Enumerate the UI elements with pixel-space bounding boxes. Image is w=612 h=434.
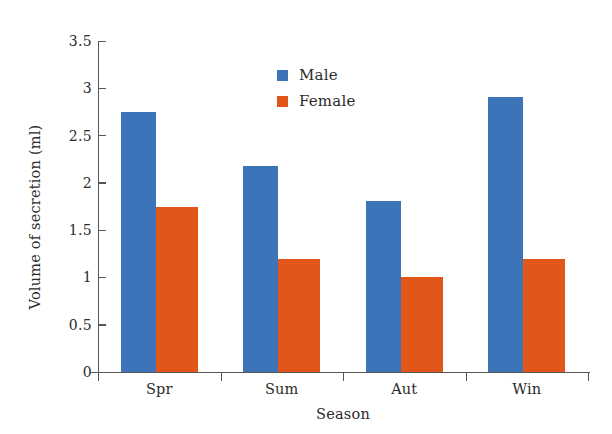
x-axis-tick-label-aut: Aut [359,381,449,397]
y-axis-tick: 3.5 [52,32,106,50]
x-axis-tick-label-win: Win [482,381,572,397]
y-axis-tick-mark [98,41,106,42]
y-axis-tick-label: 0.5 [52,316,92,334]
bar-aut-male [366,201,401,372]
x-axis-tick-label-spr: Spr [114,381,204,397]
bar-spr-female [156,207,198,373]
chart-legend: Male Female [277,62,356,114]
y-axis-tick-label: 0 [52,363,92,381]
legend-item-female: Female [277,88,356,114]
legend-swatch-male-icon [277,70,288,81]
y-axis-tick-mark [98,324,106,325]
y-axis-tick-label: 1 [52,268,92,286]
y-axis-tick: 2.5 [52,127,106,145]
y-axis-tick: 1 [52,268,106,286]
x-axis-tick-label-sum: Sum [237,381,327,397]
x-axis-line [90,372,590,373]
y-axis-tick-mark [98,182,106,183]
y-axis-tick: 1.5 [52,221,106,239]
y-axis-tick: 3 [52,79,106,97]
x-axis-title: Season [98,406,588,422]
bar-sum-female [278,259,320,372]
y-axis-tick: 2 [52,174,106,192]
legend-label-male: Male [299,66,338,84]
x-axis-tick-mark [466,373,467,381]
y-axis-tick-mark [98,230,106,231]
y-axis-tick-label: 2 [52,174,92,192]
y-axis-tick-label: 3.5 [52,32,92,50]
x-axis-tick-mark [343,373,344,381]
bar-win-female [523,259,565,372]
bar-aut-female [401,277,443,372]
y-axis-tick-label: 2.5 [52,127,92,145]
y-axis-tick-label: 1.5 [52,221,92,239]
x-axis-tick-mark [221,373,222,381]
bar-spr-male [121,112,156,372]
legend-swatch-female-icon [277,96,288,107]
bar-sum-male [243,166,278,372]
y-axis-tick-label: 3 [52,79,92,97]
y-axis-tick-mark [98,135,106,136]
legend-item-male: Male [277,62,356,88]
y-axis-tick-mark [98,88,106,89]
y-axis-title: Volume of secretion (ml) [18,0,52,434]
bar-chart-figure: Volume of secretion (ml) 3.532.521.510.5… [0,0,612,434]
x-axis-tick-mark [588,373,589,381]
x-axis-tick-mark [98,373,99,381]
y-axis-tick-mark [98,277,106,278]
y-axis-tick: 0.5 [52,316,106,334]
bar-win-male [488,97,523,372]
legend-label-female: Female [299,92,356,110]
